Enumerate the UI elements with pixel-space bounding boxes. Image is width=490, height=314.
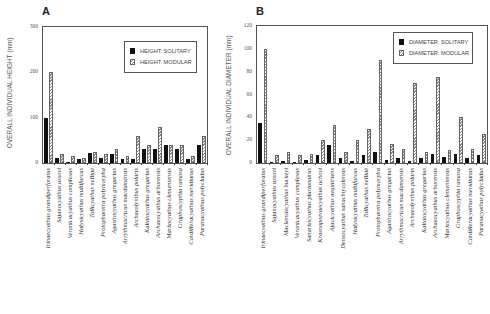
x-tick-mark [453, 163, 454, 165]
bar-solitary [385, 160, 389, 163]
x-tick-mark [407, 163, 408, 165]
y-tick-label: 60 [232, 91, 252, 97]
bar-modular [482, 134, 486, 163]
x-tick-mark [292, 163, 293, 165]
category-label: Protopharetra polymorpha [374, 168, 381, 298]
category-label: Arrythmocricus macdamensis [397, 168, 404, 298]
bar-solitary [270, 162, 274, 163]
y-tick-label: 40 [232, 113, 252, 119]
category-label: Mackenziecyathus buckeyi [282, 168, 289, 298]
x-tick-mark [464, 163, 465, 165]
x-tick-mark [384, 163, 385, 165]
bar-modular [448, 150, 452, 163]
bar-solitary [316, 155, 320, 163]
bar-solitary [327, 145, 331, 163]
category-label: Irinaecyathus grandiperforatus [259, 168, 266, 298]
bar-solitary [373, 152, 377, 163]
category-label: Markocyathus clementensis [443, 168, 450, 298]
category-label: Densocyathus sanachtycolensis [339, 168, 346, 298]
y-tick-label: 0 [232, 159, 252, 165]
bar-modular [356, 140, 360, 163]
category-label: Ajacicyathus aequitriens [328, 168, 335, 298]
bar-solitary [350, 161, 354, 163]
category-label: Kaltatocyathus gregarius [420, 168, 427, 298]
hatched-swatch-icon [399, 50, 404, 56]
x-tick-mark [361, 163, 362, 165]
bar-modular [367, 129, 371, 163]
y-axis-label-b: OVERALL INDIVIDUAL DIAMETER (mm) [225, 35, 232, 155]
legend-label: DIAMETER: MODULAR [409, 50, 469, 56]
y-tick-label: 80 [232, 68, 252, 74]
legend-item-diameter-modular: DIAMETER: MODULAR [399, 47, 467, 58]
x-tick-mark [487, 163, 488, 165]
x-tick-mark [441, 163, 442, 165]
bar-modular [333, 125, 337, 163]
bar-solitary [431, 154, 435, 163]
x-tick-mark [269, 163, 270, 165]
panel-b-diameter-chart: B OVERALL INDIVIDUAL DIAMETER (mm) 02040… [0, 0, 490, 314]
category-label: Veronicacyathus complexus [293, 168, 300, 298]
x-tick-mark [395, 163, 396, 165]
category-label: Sanarkocyathus pluriumurus [305, 168, 312, 298]
y-tick-label: 100 [232, 45, 252, 51]
category-label: Krasnopeevaecyathus uchovi [316, 168, 323, 298]
y-tick-label: 20 [232, 136, 252, 142]
x-tick-mark [372, 163, 373, 165]
bar-modular [413, 83, 417, 163]
category-label: Paranacyathus polycladus [477, 168, 484, 298]
x-tick-mark [338, 163, 339, 165]
category-label: Sajanocyathus ussovi [270, 168, 277, 298]
bar-modular [425, 152, 429, 163]
x-tick-mark [303, 163, 304, 165]
bar-modular [298, 155, 302, 163]
bar-solitary [281, 161, 285, 163]
plot-area-b: DIAMETER: SOLITARY DIAMETER: MODULAR [256, 25, 488, 164]
x-tick-mark [280, 163, 281, 165]
bar-modular [275, 155, 279, 163]
bar-solitary [477, 155, 481, 163]
bar-modular [287, 152, 291, 163]
y-tick-label: 120 [232, 22, 252, 28]
category-label: Halysicyathus multifurcus [351, 168, 358, 298]
category-label: Tollicyathus nelliae [362, 168, 369, 298]
x-tick-mark [476, 163, 477, 165]
solid-swatch-icon [399, 39, 404, 45]
bar-solitary [293, 162, 297, 163]
bar-modular [379, 60, 383, 163]
bar-solitary [442, 157, 446, 163]
bar-solitary [396, 158, 400, 163]
bar-solitary [454, 154, 458, 163]
category-label: Archaeocyathus arborensis [431, 168, 438, 298]
x-tick-mark [349, 163, 350, 165]
bar-modular [436, 77, 440, 163]
bar-modular [264, 49, 268, 163]
bar-solitary [339, 158, 343, 163]
x-tick-mark [326, 163, 327, 165]
bar-modular [390, 144, 394, 163]
x-tick-mark [418, 163, 419, 165]
x-tick-mark [315, 163, 316, 165]
bar-modular [344, 152, 348, 163]
category-label: Cordilleracyathus meridianus [466, 168, 473, 298]
category-label: Archaeolynthus polaris [408, 168, 415, 298]
bar-modular [459, 117, 463, 163]
bar-solitary [465, 158, 469, 163]
legend-item-diameter-solitary: DIAMETER: SOLITARY [399, 36, 467, 47]
category-label: Agastrocyathus gregarius [385, 168, 392, 298]
bar-solitary [362, 155, 366, 163]
legend-label: DIAMETER: SOLITARY [409, 39, 468, 45]
bar-solitary [408, 161, 412, 163]
bar-modular [310, 154, 314, 163]
category-label: Graphoscyphia ramosa [454, 168, 461, 298]
legend-b: DIAMETER: SOLITARY DIAMETER: MODULAR [393, 32, 473, 64]
bar-solitary [304, 160, 308, 163]
bar-modular [402, 149, 406, 163]
bar-modular [321, 140, 325, 163]
bar-solitary [258, 123, 262, 163]
bar-modular [471, 149, 475, 163]
panel-letter-b: B [256, 5, 264, 17]
bar-solitary [419, 158, 423, 163]
x-tick-mark [430, 163, 431, 165]
